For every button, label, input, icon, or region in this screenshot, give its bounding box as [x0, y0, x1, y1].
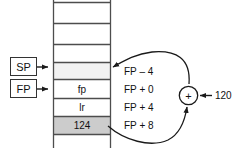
diagram-vector-layer [0, 0, 237, 155]
stack-cell-fills [53, 2, 111, 134]
address-label-fp-plus-8: FP + 8 [124, 120, 154, 131]
stack-cell-fp-value: fp [53, 84, 111, 95]
adder-plus-icon: + [180, 90, 197, 102]
address-label-fp-minus-4: FP – 4 [124, 66, 153, 77]
constant-120-label: 120 [215, 90, 232, 101]
sp-register-label: SP [16, 61, 31, 73]
fp-register-box[interactable]: FP [10, 79, 37, 98]
address-label-fp-plus-4: FP + 4 [124, 102, 154, 113]
stack-cell-lr-value: lr [53, 102, 111, 113]
fp-register-label: FP [16, 83, 30, 95]
stack-frame-diagram: SP FP fp lr 124 FP – 4 FP + 0 FP + 4 FP … [0, 0, 237, 155]
stack-cell-124-value: 124 [53, 120, 111, 131]
address-label-fp-plus-0: FP + 0 [124, 84, 154, 95]
sp-register-box[interactable]: SP [10, 57, 37, 76]
